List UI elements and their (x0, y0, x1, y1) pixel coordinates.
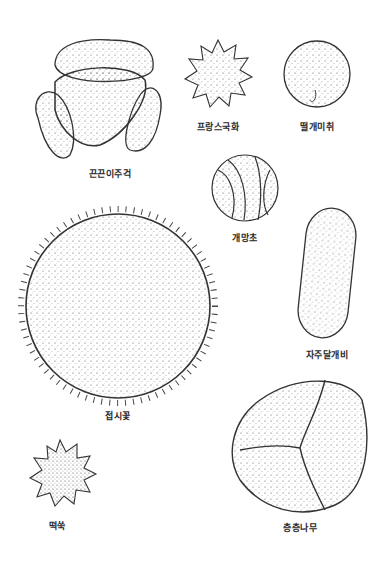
label-hollyhock: 접시꽃 (105, 409, 131, 422)
label-french-marigold: 프랑스국화 (197, 120, 240, 133)
french-marigold-pollen (185, 40, 252, 107)
label-ragweed: 떨개미취 (300, 120, 334, 133)
dogwood-pollen (232, 380, 367, 512)
label-cudweed: 떡쑥 (49, 519, 66, 532)
label-dogwood: 층층나무 (283, 521, 317, 534)
pollen-illustrations (0, 0, 389, 564)
erigeron-pollen (212, 155, 278, 221)
label-erigeron: 개망초 (232, 231, 258, 244)
cudweed-pollen (30, 440, 96, 506)
sundew-pollen (36, 40, 161, 158)
label-dayflower: 자주달개비 (306, 348, 349, 361)
hollyhock-pollen (21, 209, 215, 403)
ragweed-pollen (284, 41, 350, 107)
label-sundew: 끈끈이주걱 (89, 167, 132, 180)
dayflower-pollen (295, 206, 358, 341)
pollen-plate: 끈끈이주걱 프랑스국화 떨개미취 개망초 자주달개비 접시꽃 떡쑥 층층나무 (0, 0, 389, 564)
